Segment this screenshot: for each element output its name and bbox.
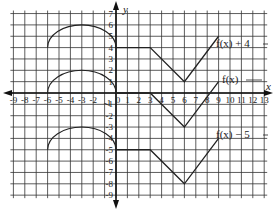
x-tick-label: -3	[78, 95, 86, 105]
label-f: f(x)	[222, 73, 239, 86]
y-tick-label: 1	[109, 77, 114, 87]
label-f-plus-4: f(x) + 4	[216, 37, 250, 50]
y-tick-label: 4	[109, 43, 114, 53]
function-transformation-chart: -9-8-7-6-5-4-3-2-10123456789101112137654…	[0, 0, 276, 214]
x-tick-label: -9	[10, 95, 18, 105]
x-tick-label: 6	[182, 95, 187, 105]
x-tick-label: -7	[32, 95, 40, 105]
x-tick-label: 1	[125, 95, 130, 105]
x-tick-label: 13	[260, 95, 270, 105]
y-tick-label: -7	[106, 167, 114, 177]
x-tick-label: 0	[116, 95, 121, 105]
x-tick-label: 2	[137, 95, 142, 105]
y-tick-label: -5	[106, 145, 114, 155]
x-tick-label: 11	[237, 95, 246, 105]
y-axis-label: y	[122, 3, 128, 15]
x-axis-label: x	[265, 80, 271, 92]
y-tick-label: -9	[106, 190, 114, 200]
y-tick-label: 2	[109, 65, 114, 75]
series-labels: f(x) + 4 f(x) f(x) − 5 y x	[122, 3, 271, 141]
label-f-minus-5: f(x) − 5	[216, 128, 250, 141]
x-tick-label: -4	[67, 95, 75, 105]
y-tick-label: -3	[106, 122, 114, 132]
x-tick-label: 12	[248, 95, 257, 105]
y-tick-label: -1	[106, 99, 114, 109]
x-tick-label: -8	[21, 95, 29, 105]
x-tick-label: -6	[44, 95, 52, 105]
x-tick-label: 5	[171, 95, 176, 105]
x-tick-label: -5	[55, 95, 63, 105]
y-tick-label: 3	[109, 54, 114, 64]
x-tick-label: -2	[89, 95, 97, 105]
axes	[3, 1, 273, 209]
y-tick-label: -8	[106, 179, 114, 189]
x-tick-label: 7	[194, 95, 199, 105]
x-tick-label: 3	[148, 95, 153, 105]
y-tick-label: 7	[109, 9, 114, 19]
y-tick-label: -4	[106, 133, 114, 143]
x-tick-label: 10	[226, 95, 236, 105]
y-tick-label: -2	[106, 111, 114, 121]
y-tick-label: -6	[106, 156, 114, 166]
x-tick-label: 9	[216, 95, 221, 105]
y-tick-label: 6	[109, 20, 114, 30]
